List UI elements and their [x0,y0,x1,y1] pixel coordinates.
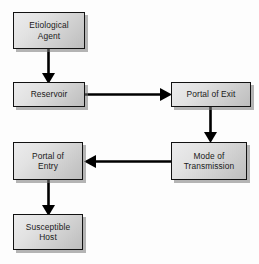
node-reservoir-label: Reservoir [29,89,70,100]
edge-exit-to-mode [204,107,217,143]
node-portal-of-exit-label: Portal of Exit [185,89,238,100]
edge-mode-to-entry [84,155,171,168]
edge-reservoir-to-exit [85,88,172,101]
node-etiological-agent: Etiological Agent [13,12,85,49]
chain-of-infection-diagram: Etiological Agent Reservoir Portal of Ex… [0,0,259,264]
node-portal-of-entry-label: Portal of Entry [30,151,66,172]
node-portal-of-exit: Portal of Exit [171,82,251,107]
node-mode-of-transmission-label: Mode of Transmission [182,151,237,172]
edge-entry-to-host [42,180,55,216]
node-susceptible-host-label: Susceptible Host [24,222,72,243]
node-reservoir: Reservoir [13,82,85,107]
node-mode-of-transmission: Mode of Transmission [171,142,247,180]
node-susceptible-host: Susceptible Host [13,214,83,250]
node-portal-of-entry: Portal of Entry [13,142,83,180]
node-etiological-agent-label: Etiological Agent [27,20,70,41]
edge-agent-to-reservoir [42,48,55,84]
